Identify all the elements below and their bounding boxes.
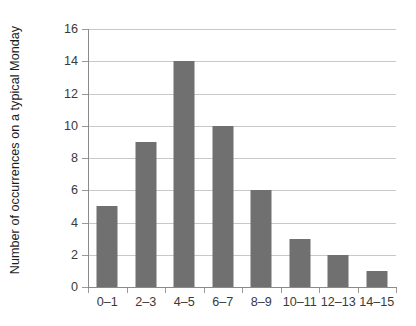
x-axis-tick-mark — [204, 288, 205, 293]
y-axis-tick-label: 6 — [48, 184, 78, 197]
x-axis-tick-label: 0–1 — [97, 296, 118, 310]
y-axis-tick-mark — [82, 158, 88, 159]
x-axis-tick-mark — [396, 288, 397, 293]
bar[interactable] — [289, 239, 310, 287]
y-axis-tick-label: 2 — [48, 248, 78, 261]
bar-slot — [88, 29, 127, 287]
bar[interactable] — [328, 255, 349, 287]
y-axis-tick-mark — [82, 190, 88, 191]
y-axis-tick-label: 14 — [48, 55, 78, 68]
y-axis-tick-mark — [82, 223, 88, 224]
x-axis-tick-mark — [358, 288, 359, 293]
y-axis-tick-label: 12 — [48, 87, 78, 100]
x-axis-ticks — [88, 288, 397, 294]
bar[interactable] — [251, 190, 272, 287]
bar-slot — [165, 29, 204, 287]
y-axis-title-text: Number of occurrences on a typical Monda… — [8, 26, 22, 274]
y-axis-tick-mark — [82, 94, 88, 95]
bar-chart-figure: Number of occurrences on a typical Monda… — [0, 0, 416, 326]
x-axis-tick-label: 12–13 — [321, 296, 356, 310]
y-axis-tick-label: 16 — [48, 23, 78, 36]
x-axis-tick-label: 10–11 — [283, 296, 317, 310]
y-axis-tick-label: 10 — [48, 119, 78, 132]
bar-slot — [127, 29, 166, 287]
y-axis-tick-label: 8 — [48, 152, 78, 165]
bar[interactable] — [212, 126, 233, 287]
bar-slot — [358, 29, 397, 287]
bar-slot — [319, 29, 358, 287]
x-axis-tick-labels: 0–12–34–56–78–910–1112–1314–15 — [88, 296, 396, 318]
y-axis-tick-mark — [82, 126, 88, 127]
bar-slot — [204, 29, 243, 287]
bar[interactable] — [174, 61, 195, 287]
y-axis-tick-mark — [82, 29, 88, 30]
y-axis-title: Number of occurrences on a typical Monda… — [0, 0, 30, 300]
y-axis-tick-labels: 0246810121416 — [48, 0, 78, 326]
x-axis-tick-mark — [242, 288, 243, 293]
y-axis-tick-mark — [82, 287, 88, 288]
y-axis-tick-label: 0 — [48, 281, 78, 294]
x-axis-tick-label: 4–5 — [174, 296, 195, 310]
y-axis-tick-label: 4 — [48, 216, 78, 229]
x-axis-tick-mark — [127, 288, 128, 293]
bar[interactable] — [366, 271, 387, 287]
bars-layer — [88, 29, 396, 287]
bar[interactable] — [97, 206, 118, 287]
x-axis-tick-mark — [165, 288, 166, 293]
x-axis-tick-mark — [88, 288, 89, 293]
y-axis-tick-mark — [82, 255, 88, 256]
x-axis-tick-label: 8–9 — [251, 296, 272, 310]
x-axis-tick-label: 14–15 — [359, 296, 394, 310]
x-axis-tick-mark — [319, 288, 320, 293]
bar-slot — [281, 29, 320, 287]
x-axis-tick-label: 6–7 — [212, 296, 233, 310]
x-axis-tick-label: 2–3 — [135, 296, 156, 310]
bar-slot — [242, 29, 281, 287]
bar[interactable] — [135, 142, 156, 287]
y-axis-tick-mark — [82, 61, 88, 62]
x-axis-tick-mark — [281, 288, 282, 293]
